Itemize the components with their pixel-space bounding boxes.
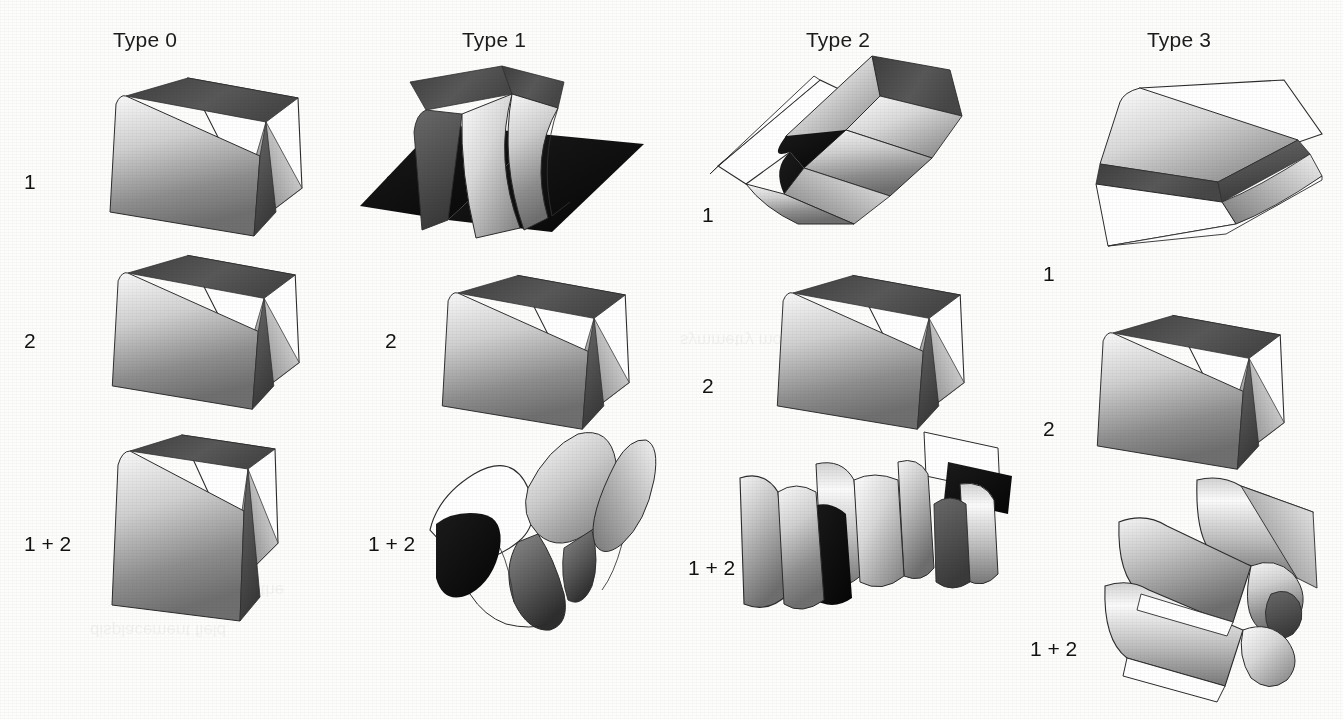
surface-tent-fold [110, 78, 302, 236]
surface-tent-fold [442, 276, 629, 430]
cell-type2-mode1plus2 [712, 418, 1032, 638]
cell-type1-mode1plus2 [378, 418, 678, 638]
cell-type2-mode1 [694, 48, 1004, 248]
surface-flat-fold-top [710, 56, 962, 224]
surface-saddle-black [360, 66, 644, 238]
column-header-type1: Type 1 [462, 28, 526, 52]
cell-type0-mode1plus2 [70, 425, 320, 630]
cell-type0-mode2 [70, 238, 320, 418]
surface-shallow-fold [1096, 80, 1322, 246]
cell-type3-mode1plus2 [1045, 470, 1343, 710]
folded-surface-figure: interactions of the displacement field s… [0, 0, 1343, 719]
surface-tent-fold-tall [112, 435, 278, 621]
row-label-type0-mode2: 2 [24, 329, 36, 353]
surface-tent-fold [112, 256, 299, 410]
row-label-type0-mode1: 1 [24, 170, 36, 194]
row-label-type0-mode1plus2: 1 + 2 [24, 532, 71, 556]
cell-type3-mode1 [1022, 58, 1337, 268]
cell-type1-mode1 [352, 52, 652, 252]
surface-tent-fold [1097, 316, 1284, 470]
surface-wave-corrugation [430, 433, 656, 631]
row-label-type3-mode2: 2 [1043, 417, 1055, 441]
cell-type2-mode2 [735, 258, 985, 438]
cell-type3-mode2 [1055, 298, 1305, 478]
surface-roll-corrugation [740, 432, 1012, 609]
column-header-type0: Type 0 [113, 28, 177, 52]
cell-type1-mode2 [400, 258, 650, 438]
surface-roll-stack [1105, 478, 1317, 702]
row-label-type2-mode2: 2 [702, 374, 714, 398]
cell-type0-mode1 [70, 60, 320, 245]
surface-tent-fold [777, 276, 964, 430]
row-label-type1-mode2: 2 [385, 329, 397, 353]
column-header-type3: Type 3 [1147, 28, 1211, 52]
